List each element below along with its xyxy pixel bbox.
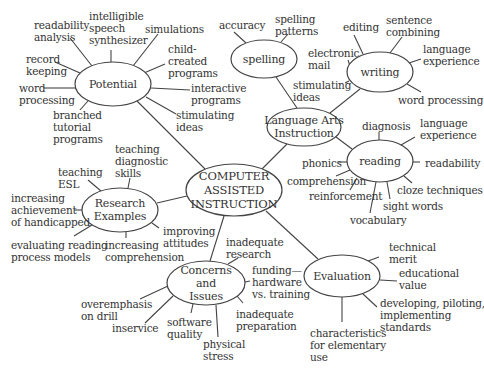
leaf-label-evaluation: developing, piloting, implementing stand… xyxy=(380,297,484,333)
leaf-label-reading: phonics xyxy=(302,157,342,169)
leaf-label-potential: interactive programs xyxy=(191,82,246,106)
spoke-line xyxy=(128,178,130,188)
leaf-label-potential: child- created programs xyxy=(168,43,218,79)
leaf-label-reading: comprehension xyxy=(287,175,366,187)
node-label-potential: Potential xyxy=(89,78,137,91)
spoke-line xyxy=(401,137,415,145)
spoke-line xyxy=(407,84,421,92)
leaf-label-research: increasing achievement of handicapped xyxy=(11,192,90,228)
leaf-label-writing: language experience xyxy=(423,43,480,67)
leaf-label-concerns: physical stress xyxy=(203,338,245,362)
leaf-label-potential: stimulating ideas xyxy=(176,109,234,133)
leaf-label-reading: reinforcement xyxy=(309,190,382,202)
spoke-line xyxy=(380,280,397,281)
leaf-label-spelling: accuracy xyxy=(219,19,265,31)
spoke-line xyxy=(390,37,402,53)
leaf-label-writing: word processing xyxy=(398,94,483,106)
spoke-line xyxy=(363,294,377,307)
leaf-label-reading: sight words xyxy=(383,200,443,212)
node-label-spelling: spelling xyxy=(243,53,285,66)
leaf-label-research: teaching ESL xyxy=(58,166,103,190)
leaf-label-potential: readability analysis xyxy=(34,19,89,43)
node-label-reading: reading xyxy=(359,155,401,168)
node-label-concerns: Concerns and Issues xyxy=(180,264,231,303)
spoke-line xyxy=(404,176,412,183)
node-label-language-arts: Language Arts Instruction xyxy=(264,114,343,140)
leaf-label-reading: language experience xyxy=(420,117,477,141)
leaf-label-evaluation: characteristics for elementary use xyxy=(310,327,386,363)
leaf-label-spelling: spelling patterns xyxy=(275,13,318,37)
leaf-label-evaluation: technical merit xyxy=(389,241,436,265)
leaf-label-concerns: inadequate preparation xyxy=(236,308,297,332)
leaf-label-reading: cloze techniques xyxy=(397,184,483,196)
center-node-label: COMPUTER ASSISTED INSTRUCTION xyxy=(191,169,278,211)
leaf-label-concerns: software quality xyxy=(167,316,212,340)
leaf-label-potential: branched tutorial programs xyxy=(53,109,103,145)
spoke-line xyxy=(152,223,159,228)
spoke-line xyxy=(368,257,379,261)
spoke-line xyxy=(146,97,176,114)
node-label-research: Research Examples xyxy=(94,197,146,223)
leaf-label-potential: word processing xyxy=(19,82,75,106)
spoke-line xyxy=(151,88,190,90)
leaf-label-research: increasing comprehension xyxy=(105,239,184,263)
node-label-evaluation: Evaluation xyxy=(313,270,371,283)
leaf-label-concerns: overemphasis on drill xyxy=(81,298,152,322)
leaf-label-potential: record keeping xyxy=(26,53,67,77)
spoke-line xyxy=(387,182,390,199)
leaf-label-concerns: inadequate research xyxy=(226,236,284,260)
leaf-label-concerns: inservice xyxy=(112,322,158,334)
connector-language-arts xyxy=(262,144,287,169)
spoke-line xyxy=(234,32,246,43)
leaf-label-research: evaluating reading process models xyxy=(11,239,108,263)
leaf-label-reading: vocabulary xyxy=(350,214,406,226)
node-label-writing: writing xyxy=(361,66,400,79)
leaf-label-evaluation: educational value xyxy=(399,267,459,291)
leaf-label-potential: intelligible speech synthesizer xyxy=(89,10,148,46)
spoke-line xyxy=(237,296,243,303)
spoke-line xyxy=(245,281,250,282)
leaf-label-writing: stimulating ideas xyxy=(293,79,351,103)
spoke-line xyxy=(216,305,218,337)
leaf-label-writing: sentence combining xyxy=(386,14,440,38)
connector-research xyxy=(157,196,187,203)
leaf-label-writing: editing xyxy=(343,21,379,33)
concept-map: COMPUTER ASSISTED INSTRUCTION Potentials… xyxy=(0,0,484,369)
leaf-label-potential: simulations xyxy=(145,23,204,35)
leaf-label-reading: diagnosis xyxy=(362,120,410,132)
spoke-line xyxy=(144,64,165,73)
leaf-label-writing: electronic mail xyxy=(308,47,359,71)
leaf-label-reading: readability xyxy=(425,157,480,169)
leaf-label-concerns: funding— hardware vs. training xyxy=(252,264,310,300)
spoke-line xyxy=(191,304,193,313)
leaf-label-research: teaching diagnostic skills xyxy=(115,143,168,179)
spoke-line xyxy=(409,59,421,63)
